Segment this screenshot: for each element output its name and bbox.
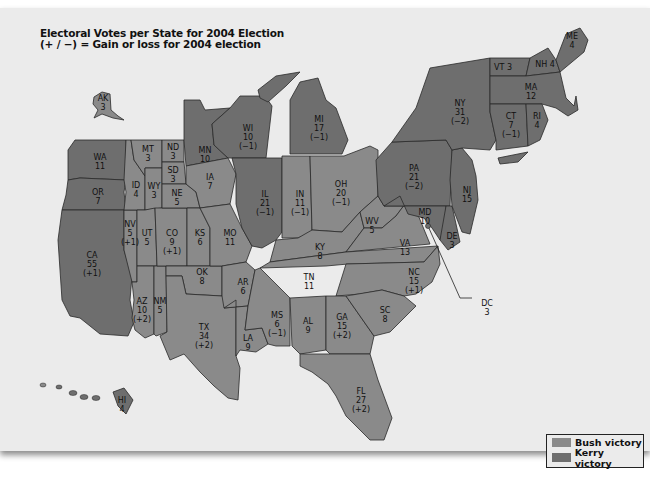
svg-text:27: 27 [356,396,366,405]
svg-text:OH: OH [335,180,347,189]
long-island [498,152,528,164]
svg-text:WI: WI [243,124,253,133]
svg-text:17: 17 [314,124,324,133]
svg-text:9: 9 [169,238,174,247]
svg-text:MD: MD [418,208,431,217]
svg-text:5: 5 [369,226,374,235]
svg-text:7: 7 [508,121,513,130]
svg-text:OK: OK [196,268,208,277]
svg-text:10: 10 [243,133,253,142]
svg-text:(−1): (−1) [256,208,274,217]
svg-text:(−1): (−1) [268,329,286,338]
svg-text:CA: CA [86,251,98,260]
svg-text:MI: MI [314,115,323,124]
legend-label-kerry: Kerry victory [575,447,643,469]
svg-text:NE: NE [171,189,182,198]
svg-text:ME: ME [566,32,578,41]
svg-text:4: 4 [133,190,138,199]
svg-text:4: 4 [119,405,124,414]
svg-text:3: 3 [484,308,489,317]
svg-text:MS: MS [271,311,283,320]
svg-text:NM: NM [154,297,167,306]
svg-text:9: 9 [245,343,250,352]
svg-text:34: 34 [199,332,209,341]
svg-text:4: 4 [569,41,574,50]
svg-text:MT: MT [142,145,154,154]
svg-text:6: 6 [274,320,279,329]
svg-text:IL: IL [262,190,269,199]
svg-text:MO: MO [223,229,236,238]
svg-text:(−2): (−2) [405,182,423,191]
svg-text:NY: NY [455,99,466,108]
svg-text:IA: IA [206,173,214,182]
svg-text:(+1): (+1) [163,247,181,256]
svg-text:3: 3 [170,175,175,184]
svg-text:NH 4: NH 4 [535,60,555,69]
state-ny [392,58,496,150]
svg-text:8: 8 [382,315,387,324]
svg-text:LA: LA [243,334,254,343]
svg-text:OR: OR [92,188,104,197]
svg-text:AZ: AZ [137,297,148,306]
kerry-swatch [552,453,571,462]
svg-text:5: 5 [174,198,179,207]
svg-text:TN: TN [303,273,315,282]
svg-text:(+2): (+2) [195,341,213,350]
svg-text:WV: WV [365,217,379,226]
svg-text:3: 3 [100,103,105,112]
svg-text:20: 20 [336,189,346,198]
svg-text:5: 5 [144,238,149,247]
svg-text:(+2): (+2) [352,405,370,414]
svg-text:8: 8 [317,252,322,261]
svg-text:MN: MN [199,146,212,155]
svg-text:GA: GA [336,313,348,322]
svg-text:AK: AK [98,94,109,103]
svg-text:11: 11 [95,162,105,171]
svg-text:5: 5 [127,229,132,238]
svg-text:SC: SC [380,306,391,315]
svg-text:(−1): (−1) [310,133,328,142]
svg-text:VT 3: VT 3 [494,63,512,72]
svg-text:AL: AL [303,317,313,326]
svg-text:3: 3 [145,154,150,163]
svg-text:10: 10 [137,306,147,315]
us-electoral-map: AK3 HI4 WA11 OR7 CA55(+1) NV5(+1) ID4 MT… [0,0,650,496]
svg-text:3: 3 [449,241,454,250]
svg-text:RI: RI [533,112,541,121]
svg-text:(−1): (−1) [502,130,520,139]
svg-text:(+2): (+2) [133,315,151,324]
svg-text:(+1): (+1) [83,269,101,278]
svg-text:(−2): (−2) [451,117,469,126]
svg-text:PA: PA [409,164,419,173]
svg-text:55: 55 [87,260,97,269]
svg-text:(+1): (+1) [121,238,139,247]
svg-text:HI: HI [118,396,126,405]
svg-text:15: 15 [462,195,472,204]
svg-text:6: 6 [240,287,245,296]
svg-text:VA: VA [400,239,411,248]
svg-text:KY: KY [315,243,325,252]
svg-text:UT: UT [142,229,153,238]
svg-text:5: 5 [157,306,162,315]
svg-text:11: 11 [295,199,305,208]
svg-text:13: 13 [400,248,410,257]
svg-text:FL: FL [356,387,366,396]
svg-text:(+1): (+1) [405,286,423,295]
svg-text:MA: MA [525,83,538,92]
svg-text:11: 11 [225,238,235,247]
bush-swatch [552,438,571,447]
svg-text:IN: IN [296,190,304,199]
svg-text:10: 10 [420,217,430,226]
svg-text:11: 11 [304,282,314,291]
svg-text:WY: WY [148,182,161,191]
svg-text:NC: NC [408,268,420,277]
svg-text:(−1): (−1) [332,198,350,207]
svg-text:21: 21 [260,199,270,208]
state-fl [300,354,392,440]
svg-text:31: 31 [455,108,465,117]
svg-text:TX: TX [198,323,210,332]
svg-text:DE: DE [446,232,457,241]
svg-text:AR: AR [237,278,248,287]
svg-text:(−1): (−1) [239,142,257,151]
svg-text:NV: NV [124,220,136,229]
